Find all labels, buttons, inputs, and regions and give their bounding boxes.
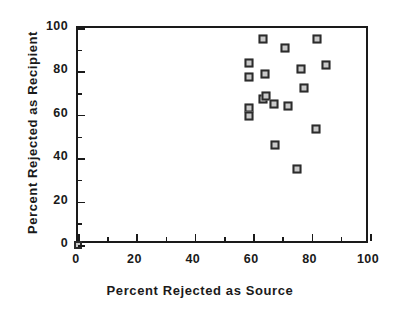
y-axis-minor-tick — [78, 180, 82, 182]
x-tick-label: 20 — [127, 252, 142, 266]
x-axis-minor-tick — [224, 237, 226, 241]
y-axis-minor-tick — [78, 137, 82, 139]
scatter-plot-figure: 020406080100020406080100 Percent Rejecte… — [0, 0, 400, 311]
y-axis-tick — [78, 71, 85, 73]
data-point — [281, 43, 290, 52]
y-axis-tick — [78, 202, 85, 204]
data-point — [244, 72, 253, 81]
x-tick-label: 40 — [185, 252, 200, 266]
x-axis-tick — [78, 234, 80, 241]
x-axis-title: Percent Rejected as Source — [0, 283, 400, 298]
x-tick-label: 60 — [244, 252, 259, 266]
x-axis-minor-tick — [107, 237, 109, 241]
y-axis-tick — [78, 158, 85, 160]
y-axis-tick — [78, 28, 85, 30]
data-point — [300, 83, 309, 92]
data-point — [293, 165, 302, 174]
y-axis-minor-tick — [78, 93, 82, 95]
y-axis-minor-tick — [78, 50, 82, 52]
data-point — [244, 58, 253, 67]
data-point — [322, 60, 331, 69]
data-point — [244, 111, 253, 120]
y-axis-minor-tick — [78, 223, 82, 225]
data-point — [260, 69, 269, 78]
data-point — [259, 34, 268, 43]
x-tick-label: 0 — [72, 252, 79, 266]
data-point — [271, 141, 280, 150]
plot-area — [76, 26, 368, 243]
x-axis-tick — [253, 234, 255, 241]
x-axis-tick — [136, 234, 138, 241]
x-axis-minor-tick — [282, 237, 284, 241]
x-axis-tick — [195, 234, 197, 241]
y-axis-title: Percent Rejected as Recipient — [25, 23, 40, 243]
data-point — [313, 34, 322, 43]
x-axis-minor-tick — [341, 237, 343, 241]
x-tick-label: 80 — [302, 252, 317, 266]
y-axis-tick — [78, 245, 85, 247]
x-axis-tick — [312, 234, 314, 241]
data-point — [311, 124, 320, 133]
x-axis-tick — [370, 234, 372, 241]
x-tick-label: 100 — [357, 252, 379, 266]
x-axis-minor-tick — [166, 237, 168, 241]
data-point — [297, 65, 306, 74]
data-point — [269, 99, 278, 108]
y-axis-tick — [78, 115, 85, 117]
data-point — [284, 102, 293, 111]
